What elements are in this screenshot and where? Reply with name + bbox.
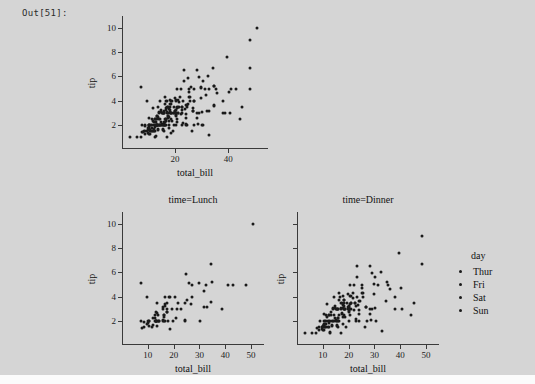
- data-point: [169, 295, 172, 298]
- data-point: [315, 326, 318, 329]
- data-point: [330, 313, 333, 316]
- data-point: [397, 252, 400, 255]
- legend-item-sat[interactable]: Sat: [455, 291, 492, 304]
- data-point: [175, 99, 178, 102]
- data-point: [357, 313, 360, 316]
- data-point: [155, 301, 158, 304]
- legend-item-thur[interactable]: Thur: [455, 265, 492, 278]
- x-axis-label-overall: total_bill: [177, 167, 213, 178]
- data-point: [314, 331, 317, 334]
- x-axis-spine: [297, 344, 439, 345]
- y-tick-label: 8: [112, 244, 117, 253]
- data-point: [170, 131, 173, 134]
- data-point: [385, 299, 388, 302]
- data-point: [181, 123, 184, 126]
- data-point: [164, 295, 167, 298]
- data-point: [338, 314, 341, 317]
- x-axis-label-lunch: total_bill: [175, 363, 211, 374]
- data-point: [388, 287, 391, 290]
- y-tick: [118, 28, 122, 29]
- data-point: [255, 27, 258, 30]
- data-point: [245, 283, 248, 286]
- data-point: [154, 135, 157, 138]
- data-point: [249, 39, 252, 42]
- data-point: [207, 87, 210, 90]
- x-tick-label: 30: [195, 351, 204, 360]
- data-point: [155, 123, 158, 126]
- output-prompt-label: Out[51]:: [22, 8, 68, 18]
- plot-area-lunch: [122, 212, 264, 345]
- legend-entries: ThurFriSatSun: [455, 265, 492, 317]
- x-tick-label: 50: [422, 351, 431, 360]
- data-point: [201, 80, 204, 83]
- data-point: [163, 304, 166, 307]
- data-point: [146, 99, 149, 102]
- data-point: [180, 87, 183, 90]
- data-point: [353, 301, 356, 304]
- data-point: [150, 325, 153, 328]
- data-point: [342, 301, 345, 304]
- data-point: [205, 306, 208, 309]
- data-point: [156, 128, 159, 131]
- x-tick-label: 40: [396, 351, 405, 360]
- data-point: [373, 306, 376, 309]
- data-point: [140, 326, 143, 329]
- x-tick: [426, 345, 427, 349]
- data-point: [164, 96, 167, 99]
- data-point: [158, 111, 161, 114]
- data-point: [152, 317, 155, 320]
- data-point: [252, 223, 255, 226]
- data-point: [249, 66, 252, 69]
- data-point: [335, 319, 338, 322]
- data-point: [357, 319, 360, 322]
- data-point: [355, 295, 358, 298]
- data-point: [162, 123, 165, 126]
- legend-item-label: Thur: [473, 267, 492, 277]
- y-tick-label: 10: [107, 24, 116, 33]
- legend-item-sun[interactable]: Sun: [455, 304, 492, 317]
- data-point: [169, 105, 172, 108]
- data-point: [173, 123, 176, 126]
- data-point: [195, 69, 198, 72]
- scatter-panel-lunch: time=Lunch total_bill tip 24681010203040…: [122, 212, 264, 345]
- data-point: [179, 113, 182, 116]
- legend-item-label: Sat: [473, 293, 486, 303]
- data-point: [187, 281, 190, 284]
- data-point: [140, 135, 143, 138]
- data-point: [332, 307, 335, 310]
- data-point: [374, 319, 377, 322]
- x-tick: [228, 149, 229, 153]
- data-point: [143, 320, 146, 323]
- data-point: [317, 328, 320, 331]
- data-point: [228, 111, 231, 114]
- data-point: [158, 99, 161, 102]
- data-point: [394, 307, 397, 310]
- data-point: [216, 91, 219, 94]
- data-point: [188, 91, 191, 94]
- data-point: [165, 99, 168, 102]
- x-tick-label: 40: [224, 155, 233, 164]
- data-point: [162, 111, 165, 114]
- data-point: [213, 85, 216, 88]
- legend-item-fri[interactable]: Fri: [455, 278, 492, 291]
- data-point: [200, 97, 203, 100]
- x-tick-label: 50: [247, 351, 256, 360]
- data-point: [207, 75, 210, 78]
- data-point: [248, 87, 251, 90]
- scatter-panel-overall: total_bill tip 2468102040: [122, 16, 268, 149]
- legend-marker-icon: [459, 309, 462, 312]
- data-point: [241, 105, 244, 108]
- data-point: [420, 235, 423, 238]
- legend-marker-icon: [459, 296, 462, 299]
- data-point: [205, 93, 208, 96]
- data-point: [191, 295, 194, 298]
- plot-area-dinner: [297, 212, 439, 345]
- data-point: [342, 322, 345, 325]
- x-tick: [323, 345, 324, 349]
- data-point: [332, 295, 335, 298]
- panel-title-lunch: time=Lunch: [169, 194, 218, 205]
- data-point: [354, 304, 357, 307]
- y-tick: [118, 297, 122, 298]
- data-point: [155, 324, 158, 327]
- data-point: [139, 281, 142, 284]
